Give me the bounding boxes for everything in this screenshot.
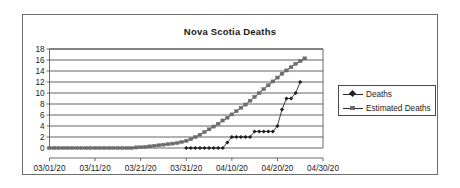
- chart-legend: Deaths Estimated Deaths: [338, 85, 436, 116]
- svg-text:6: 6: [40, 111, 45, 120]
- svg-text:14: 14: [35, 67, 45, 76]
- svg-text:4: 4: [40, 122, 45, 131]
- svg-text:18: 18: [35, 45, 45, 54]
- legend-item-estimated-deaths[interactable]: Estimated Deaths: [339, 101, 435, 115]
- svg-text:2: 2: [40, 133, 45, 142]
- svg-text:03/31/20: 03/31/20: [170, 164, 202, 173]
- svg-text:12: 12: [35, 78, 45, 87]
- svg-text:8: 8: [40, 100, 45, 109]
- legend-marker-diamond-icon: [343, 89, 363, 99]
- legend-item-deaths[interactable]: Deaths: [339, 87, 435, 101]
- svg-text:04/10/20: 04/10/20: [216, 164, 248, 173]
- svg-text:03/11/20: 03/11/20: [79, 164, 111, 173]
- svg-text:03/21/20: 03/21/20: [125, 164, 157, 173]
- legend-label-estimated-deaths: Estimated Deaths: [363, 104, 431, 113]
- svg-text:10: 10: [35, 89, 45, 98]
- svg-text:03/01/20: 03/01/20: [34, 164, 66, 173]
- chart-container: Nova Scotia Deaths 02468101214161803/01/…: [22, 14, 438, 175]
- svg-text:04/30/20: 04/30/20: [307, 164, 339, 173]
- svg-text:0: 0: [40, 144, 45, 153]
- legend-label-deaths: Deaths: [363, 90, 392, 99]
- legend-marker-square-icon: [343, 103, 363, 113]
- svg-text:16: 16: [35, 56, 45, 65]
- svg-text:04/20/20: 04/20/20: [261, 164, 293, 173]
